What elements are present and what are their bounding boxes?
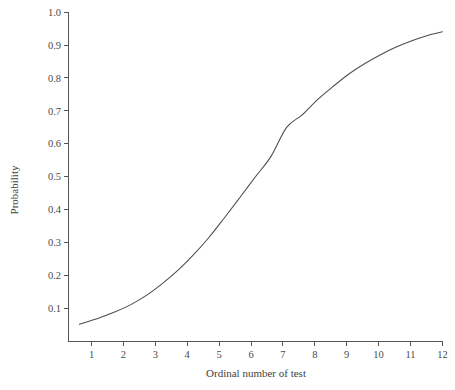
x-tick-label: 6: [248, 349, 253, 360]
x-tick-label: 7: [280, 349, 285, 360]
x-axis-ticks: [92, 342, 443, 347]
y-tick-label: 0.7: [48, 106, 61, 117]
y-axis-ticks: [64, 12, 69, 308]
probability-curve: [79, 32, 442, 325]
x-tick-label: 9: [344, 349, 349, 360]
x-tick-label: 11: [405, 349, 415, 360]
x-tick-label: 3: [153, 349, 158, 360]
x-tick-label: 4: [185, 349, 191, 360]
y-tick-label: 0.4: [48, 204, 62, 215]
y-tick-label: 0.9: [48, 40, 61, 51]
y-tick-label: 0.2: [48, 270, 61, 281]
x-tick-label: 8: [312, 349, 317, 360]
x-axis-title: Ordinal number of test: [206, 367, 306, 379]
x-tick-label: 1: [89, 349, 94, 360]
x-tick-label: 2: [121, 349, 126, 360]
y-axis-title: Probability: [8, 165, 20, 214]
x-tick-label: 12: [437, 349, 448, 360]
probability-line-chart: Probability Ordinal number of test 0.1 0…: [0, 0, 455, 390]
x-tick-label: 10: [373, 349, 384, 360]
x-axis-tick-labels: 1 2 3 4 5 6 7 8 9 10 11 12: [89, 349, 448, 360]
y-axis-tick-labels: 0.1 0.2 0.3 0.4 0.5 0.6 0.7 0.8 0.9 1.0: [48, 7, 62, 314]
y-tick-label: 0.6: [48, 138, 61, 149]
y-tick-label: 0.8: [48, 73, 61, 84]
y-tick-label: 0.1: [48, 303, 61, 314]
x-tick-label: 5: [216, 349, 221, 360]
y-tick-label: 1.0: [48, 7, 61, 18]
y-tick-label: 0.5: [48, 171, 61, 182]
y-tick-label: 0.3: [48, 237, 61, 248]
chart-figure: Probability Ordinal number of test 0.1 0…: [0, 0, 455, 390]
